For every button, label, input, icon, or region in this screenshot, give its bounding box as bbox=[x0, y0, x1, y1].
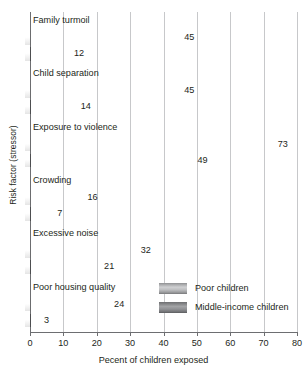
bar-fill bbox=[30, 154, 31, 168]
x-tick-80 bbox=[297, 332, 298, 336]
bar-value-label: 16 bbox=[87, 192, 97, 203]
bar-poor-children bbox=[30, 298, 110, 312]
x-tick-label-0: 0 bbox=[18, 338, 42, 349]
bar-group: Excessive noise3221 bbox=[30, 225, 297, 278]
bar-fill bbox=[30, 100, 31, 114]
chart-legend: Poor children Middle-income children bbox=[159, 281, 289, 319]
category-label: Excessive noise bbox=[33, 228, 98, 239]
bar-poor-children bbox=[30, 31, 180, 45]
x-axis-title: Pecent of children exposed bbox=[0, 355, 307, 365]
bar-group: Family turmoil4512 bbox=[30, 12, 297, 65]
bar-fill bbox=[30, 138, 31, 152]
x-tick-10 bbox=[63, 332, 64, 336]
category-label: Exposure to violence bbox=[33, 122, 117, 133]
x-tick-label-80: 80 bbox=[285, 338, 307, 349]
bar-fill bbox=[30, 260, 31, 274]
bar-fill bbox=[30, 207, 31, 221]
legend-item-middle-income-children: Middle-income children bbox=[159, 300, 289, 315]
bar-group: Crowding167 bbox=[30, 172, 297, 225]
bar-middle-income-children bbox=[30, 154, 194, 168]
bar-poor-children bbox=[30, 244, 137, 258]
legend-label-middle-income-children: Middle-income children bbox=[195, 302, 289, 313]
bar-group: Exposure to violence7349 bbox=[30, 119, 297, 172]
bar-chart: Risk factor (stressor) Family turmoil451… bbox=[0, 0, 307, 373]
bar-poor-children bbox=[30, 84, 180, 98]
bar-value-label: 73 bbox=[278, 139, 288, 150]
bar-middle-income-children bbox=[30, 100, 77, 114]
legend-label-poor-children: Poor children bbox=[195, 283, 249, 294]
bar-value-label: 21 bbox=[104, 261, 114, 272]
legend-item-poor-children: Poor children bbox=[159, 281, 289, 296]
bar-value-label: 49 bbox=[198, 155, 208, 166]
bar-value-label: 14 bbox=[81, 101, 91, 112]
legend-swatch-icon-poor-children bbox=[159, 283, 187, 294]
x-tick-0 bbox=[30, 332, 31, 336]
x-tick-label-40: 40 bbox=[152, 338, 176, 349]
bar-fill bbox=[30, 31, 31, 45]
x-tick-20 bbox=[97, 332, 98, 336]
legend-swatch-icon-middle-income-children bbox=[159, 302, 187, 313]
bar-fill bbox=[30, 47, 31, 61]
bar-middle-income-children bbox=[30, 47, 70, 61]
x-tick-70 bbox=[264, 332, 265, 336]
bar-value-label: 12 bbox=[74, 48, 84, 59]
bar-value-label: 32 bbox=[141, 245, 151, 256]
category-label: Family turmoil bbox=[33, 15, 90, 26]
y-axis-title: Risk factor (stressor) bbox=[8, 90, 18, 240]
x-tick-label-60: 60 bbox=[218, 338, 242, 349]
bar-fill bbox=[30, 84, 31, 98]
bar-value-label: 45 bbox=[184, 85, 194, 96]
bar-value-label: 24 bbox=[114, 299, 124, 310]
gridline-80 bbox=[297, 12, 298, 332]
x-tick-40 bbox=[164, 332, 165, 336]
bar-fill bbox=[30, 244, 31, 258]
bar-value-label: 7 bbox=[57, 208, 62, 219]
x-tick-label-20: 20 bbox=[85, 338, 109, 349]
bar-poor-children bbox=[30, 138, 274, 152]
x-tick-30 bbox=[130, 332, 131, 336]
x-tick-label-30: 30 bbox=[118, 338, 142, 349]
bar-fill bbox=[30, 191, 31, 205]
x-tick-60 bbox=[230, 332, 231, 336]
bar-group: Child separation4514 bbox=[30, 65, 297, 118]
category-label: Crowding bbox=[33, 175, 71, 186]
bar-fill bbox=[30, 314, 31, 328]
bar-middle-income-children bbox=[30, 260, 100, 274]
bar-middle-income-children bbox=[30, 207, 53, 221]
bar-fill bbox=[30, 298, 31, 312]
bar-value-label: 3 bbox=[44, 315, 49, 326]
x-tick-label-10: 10 bbox=[51, 338, 75, 349]
bar-middle-income-children bbox=[30, 314, 40, 328]
category-label: Poor housing quality bbox=[33, 282, 115, 293]
category-label: Child separation bbox=[33, 68, 99, 79]
x-tick-label-70: 70 bbox=[252, 338, 276, 349]
x-tick-50 bbox=[197, 332, 198, 336]
bar-poor-children bbox=[30, 191, 83, 205]
x-tick-label-50: 50 bbox=[185, 338, 209, 349]
bar-value-label: 45 bbox=[184, 32, 194, 43]
